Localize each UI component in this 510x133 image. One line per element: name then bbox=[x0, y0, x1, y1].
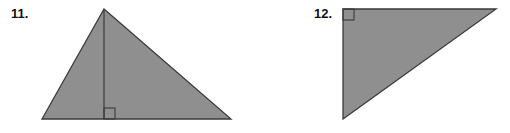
figures bbox=[0, 0, 510, 133]
triangle-12 bbox=[343, 9, 496, 119]
problem-12-figure bbox=[343, 9, 496, 119]
triangle-11 bbox=[42, 9, 231, 119]
problem-11-figure bbox=[42, 9, 231, 119]
